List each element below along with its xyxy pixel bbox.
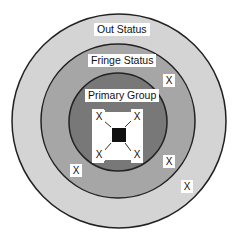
concentric-diagram bbox=[0, 0, 238, 242]
fringe-member-marker: X bbox=[70, 164, 82, 177]
primary-member-marker: X bbox=[93, 148, 105, 161]
primary-member-marker: X bbox=[93, 110, 105, 123]
out-member-marker: X bbox=[181, 180, 193, 193]
out-status-label: Out Status bbox=[94, 23, 150, 36]
primary-member-marker: X bbox=[131, 110, 143, 123]
fringe-member-marker: X bbox=[163, 155, 175, 168]
fringe-member-marker: X bbox=[163, 74, 175, 87]
center-marker bbox=[112, 128, 126, 142]
primary-member-marker: X bbox=[131, 148, 143, 161]
primary-group-label: Primary Group bbox=[85, 89, 159, 102]
fringe-status-label: Fringe Status bbox=[88, 54, 156, 67]
